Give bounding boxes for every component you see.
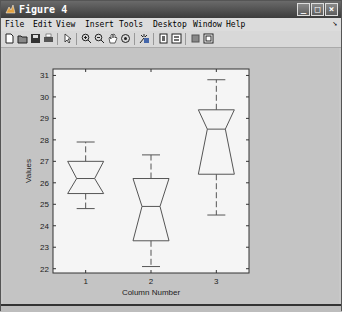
x-axis-label: Column Number (122, 288, 181, 297)
insert-colorbar-icon[interactable] (158, 33, 169, 44)
y-tick-label: 23 (40, 243, 49, 252)
box-plot[interactable]: 22232425262728293031123Column NumberValu… (3, 48, 339, 304)
toolbar-separator (134, 33, 135, 45)
x-tick-label: 2 (149, 277, 154, 286)
y-tick-label: 24 (40, 222, 49, 231)
zoom-in-icon[interactable] (81, 33, 92, 44)
y-tick-label: 27 (40, 157, 49, 166)
menu-insert[interactable]: Insert (85, 18, 114, 31)
window-bottom-border (1, 304, 341, 312)
minimize-button[interactable]: _ (297, 3, 310, 16)
toolbar-separator (185, 33, 186, 45)
y-tick-label: 22 (40, 265, 49, 274)
rotate-3d-icon[interactable] (120, 33, 131, 44)
zoom-out-icon[interactable] (94, 33, 105, 44)
maximize-icon: □ (315, 4, 320, 14)
window-title: Figure 4 (19, 1, 67, 18)
open-file-icon[interactable] (17, 33, 28, 44)
menu-bar: File Edit View Insert Tools Desktop Wind… (1, 18, 341, 31)
hide-plot-tools-icon[interactable] (190, 33, 201, 44)
new-figure-icon[interactable] (4, 33, 15, 44)
insert-legend-icon[interactable] (171, 33, 182, 44)
title-bar[interactable]: Figure 4 _ □ × (1, 1, 341, 18)
edit-plot-arrow-icon[interactable] (62, 33, 73, 44)
menu-dock-arrow-icon[interactable]: ➘ (333, 18, 337, 31)
close-button[interactable]: × (325, 3, 338, 16)
figure-toolbar (1, 31, 341, 48)
y-tick-label: 29 (40, 114, 49, 123)
toolbar-separator (76, 33, 77, 45)
figure-canvas: 22232425262728293031123Column NumberValu… (3, 48, 339, 304)
y-tick-label: 25 (40, 200, 49, 209)
print-icon[interactable] (43, 33, 54, 44)
y-tick-label: 26 (40, 179, 49, 188)
pan-hand-icon[interactable] (107, 33, 118, 44)
minimize-icon: _ (301, 4, 306, 14)
y-tick-label: 30 (40, 93, 49, 102)
x-tick-label: 3 (214, 277, 219, 286)
y-axis-label: Values (24, 159, 33, 183)
show-plot-tools-icon[interactable] (203, 33, 214, 44)
menu-file[interactable]: File (5, 18, 24, 31)
menu-window[interactable]: Window (193, 18, 222, 31)
menu-tools[interactable]: Tools (119, 18, 143, 31)
menu-view[interactable]: View (56, 18, 75, 31)
y-tick-label: 28 (40, 136, 49, 145)
close-icon: × (329, 4, 334, 14)
menu-desktop[interactable]: Desktop (153, 18, 187, 31)
toolbar-separator (57, 33, 58, 45)
save-icon[interactable] (30, 33, 41, 44)
matlab-logo-icon (5, 4, 16, 15)
menu-edit[interactable]: Edit (33, 18, 52, 31)
y-tick-label: 31 (40, 71, 49, 80)
maximize-button[interactable]: □ (311, 3, 324, 16)
x-tick-label: 1 (83, 277, 88, 286)
data-cursor-icon[interactable] (139, 33, 150, 44)
menu-help[interactable]: Help (226, 18, 245, 31)
toolbar-separator (153, 33, 154, 45)
